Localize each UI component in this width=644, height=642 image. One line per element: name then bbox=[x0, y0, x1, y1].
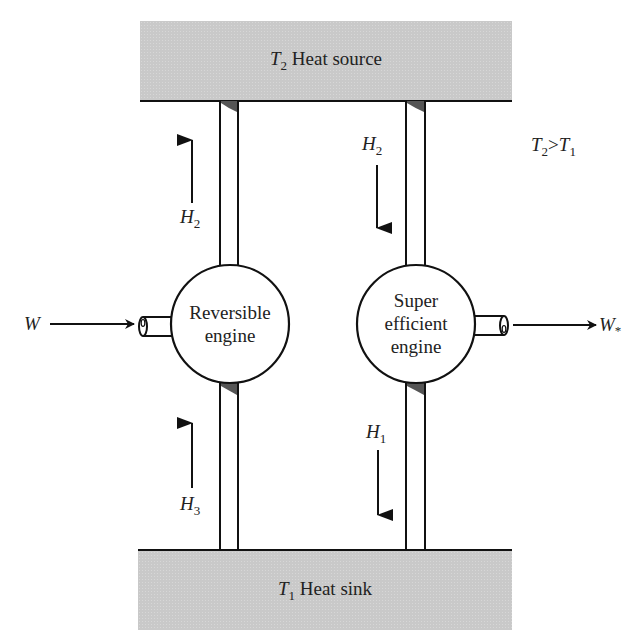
cond-t1-subscript: 1 bbox=[569, 144, 576, 159]
right-shaft bbox=[473, 316, 508, 335]
right-upper-pipe bbox=[406, 101, 425, 267]
h2-right-label: H2 bbox=[362, 133, 382, 159]
left-shaft bbox=[139, 317, 172, 336]
h2-left-symbol: H bbox=[180, 206, 194, 227]
h2-right-subscript: 2 bbox=[376, 143, 383, 158]
h1-label: H1 bbox=[366, 421, 386, 447]
super-efficient-line3: engine bbox=[358, 335, 474, 358]
super-efficient-line1: Super bbox=[358, 289, 474, 312]
reversible-engine-line2: engine bbox=[172, 324, 288, 347]
reversible-engine-line1: Reversible bbox=[172, 301, 288, 324]
left-upper-pipe bbox=[220, 101, 238, 267]
work-in-label: W bbox=[24, 313, 40, 335]
work-out-label: W* bbox=[599, 314, 621, 339]
cond-t1-symbol: T bbox=[559, 134, 570, 155]
reversible-engine-label: Reversible engine bbox=[172, 301, 288, 347]
diagram-lines bbox=[0, 0, 644, 642]
work-out-subscript: * bbox=[615, 323, 622, 338]
cond-t2-symbol: T bbox=[531, 134, 542, 155]
heat-engine-diagram: T2 Heat source T1 Heat sink bbox=[0, 0, 644, 642]
left-lower-pipe bbox=[220, 381, 238, 549]
h1-symbol: H bbox=[366, 421, 380, 442]
h2-left-label: H2 bbox=[180, 206, 200, 232]
h1-subscript: 1 bbox=[380, 431, 387, 446]
h3-symbol: H bbox=[180, 493, 194, 514]
cond-operator: > bbox=[548, 134, 559, 155]
h3-subscript: 3 bbox=[194, 503, 201, 518]
h3-label: H3 bbox=[180, 493, 200, 519]
work-in-symbol: W bbox=[24, 313, 40, 334]
h2-right-symbol: H bbox=[362, 133, 376, 154]
work-out-symbol: W bbox=[599, 314, 615, 335]
right-lower-pipe bbox=[406, 381, 425, 549]
temperature-condition: T2>T1 bbox=[531, 134, 576, 160]
h2-left-subscript: 2 bbox=[194, 216, 201, 231]
super-efficient-line2: efficient bbox=[358, 312, 474, 335]
super-efficient-engine-label: Super efficient engine bbox=[358, 289, 474, 358]
